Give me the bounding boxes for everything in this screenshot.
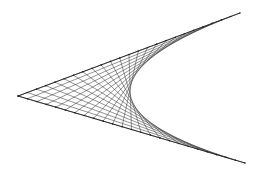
division-dot: [54, 81, 56, 83]
division-dot: [74, 112, 76, 114]
division-dot: [100, 64, 102, 66]
division-dot: [110, 61, 112, 63]
division-dot: [63, 78, 65, 80]
envelope-line: [37, 20, 222, 102]
division-dot: [36, 101, 38, 103]
division-dot: [45, 85, 47, 87]
division-dot: [36, 88, 38, 90]
division-dot: [211, 23, 213, 25]
division-dot: [93, 118, 95, 120]
division-dot: [178, 143, 180, 145]
division-dot: [112, 123, 114, 125]
division-dot: [73, 74, 75, 76]
division-dot: [102, 120, 104, 122]
division-dot: [91, 68, 93, 70]
division-dot: [119, 57, 121, 59]
division-dot: [197, 148, 199, 150]
string-art-diagram: [0, 0, 259, 173]
division-dot: [184, 33, 186, 35]
division-dot: [169, 140, 171, 142]
division-dot: [128, 54, 130, 56]
division-dot: [82, 71, 84, 73]
division-dot: [159, 137, 161, 139]
envelope-line: [122, 51, 138, 127]
division-dot: [244, 162, 246, 164]
division-dot: [235, 159, 237, 161]
division-dot: [121, 126, 123, 128]
division-dot: [221, 19, 223, 21]
envelope-line: [103, 44, 157, 121]
division-dot: [147, 47, 149, 49]
division-dot: [46, 104, 48, 106]
division-dot: [156, 43, 158, 45]
division-dot: [174, 36, 176, 38]
envelope-line: [27, 16, 230, 98]
division-dot: [55, 106, 57, 108]
division-dot: [206, 151, 208, 153]
division-dot: [239, 12, 241, 14]
division-dot: [26, 92, 28, 94]
division-dot: [187, 145, 189, 147]
division-dot: [64, 109, 66, 111]
division-dot: [193, 29, 195, 31]
division-dot: [165, 40, 167, 42]
division-dot: [216, 154, 218, 156]
division-dot: [17, 95, 19, 97]
division-dot: [27, 98, 29, 100]
division-dot: [137, 50, 139, 52]
division-dot: [230, 16, 232, 18]
division-dot: [131, 129, 133, 131]
division-dot: [150, 134, 152, 136]
envelope-lines: [18, 13, 245, 163]
division-dot: [202, 26, 204, 28]
division-dot: [83, 115, 85, 117]
division-dot: [140, 131, 142, 133]
division-dot: [225, 157, 227, 159]
